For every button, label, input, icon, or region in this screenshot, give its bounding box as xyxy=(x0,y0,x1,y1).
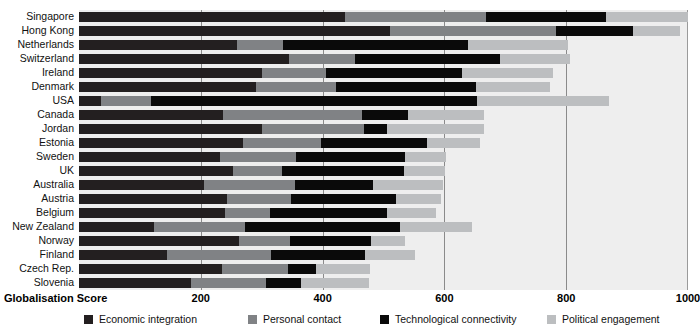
gridline-600 xyxy=(444,10,445,290)
legend-swatch-icon xyxy=(380,315,389,324)
bar-segment xyxy=(79,110,223,120)
plot-right-edge xyxy=(687,10,688,290)
legend-swatch-icon xyxy=(547,315,556,324)
bar-segment xyxy=(476,82,550,92)
bar-segment xyxy=(79,166,233,176)
bar-segment xyxy=(362,110,408,120)
bar-segment xyxy=(79,54,289,64)
bar-segment xyxy=(296,152,406,162)
bar-segment xyxy=(282,166,404,176)
x-tick-label-800: 800 xyxy=(557,292,575,304)
bar-segment xyxy=(79,124,262,134)
bar-segment xyxy=(204,180,295,190)
bar-segment xyxy=(227,194,291,204)
category-label: Czech Rep. xyxy=(0,263,74,274)
category-label: Switzerland xyxy=(0,53,74,64)
x-tick-label-400: 400 xyxy=(313,292,331,304)
bar-segment xyxy=(79,26,390,36)
category-label: Australia xyxy=(0,179,74,190)
bar-segment xyxy=(364,124,387,134)
bar-row xyxy=(79,12,688,22)
bar-segment xyxy=(468,40,568,50)
legend-label: Political engagement xyxy=(562,313,659,325)
bar-row xyxy=(79,26,688,36)
bar-segment xyxy=(288,264,315,274)
category-label: Norway xyxy=(0,235,74,246)
category-label: Canada xyxy=(0,109,74,120)
bar-segment xyxy=(633,26,680,36)
bar-segment xyxy=(101,96,152,106)
bar-row xyxy=(79,82,688,92)
bar-row xyxy=(79,222,688,232)
bar-segment xyxy=(225,208,271,218)
bar-segment xyxy=(396,194,440,204)
globalisation-score-chart: SingaporeHong KongNetherlandsSwitzerland… xyxy=(0,0,700,336)
x-axis-title: Globalisation Score xyxy=(4,292,107,304)
bar-row xyxy=(79,278,688,288)
gridline-200 xyxy=(201,10,202,290)
legend-swatch-icon xyxy=(84,315,93,324)
bar-segment xyxy=(79,222,154,232)
category-label: Sweden xyxy=(0,151,74,162)
bar-row xyxy=(79,124,688,134)
category-label: New Zealand xyxy=(0,221,74,232)
bar-segment xyxy=(245,222,400,232)
legend-item[interactable]: Economic integration xyxy=(84,313,197,325)
category-label: USA xyxy=(0,95,74,106)
legend-swatch-icon xyxy=(248,315,257,324)
bar-segment xyxy=(79,12,345,22)
legend-item[interactable]: Political engagement xyxy=(547,313,659,325)
bar-segment xyxy=(237,40,283,50)
bar-row xyxy=(79,152,688,162)
bar-row xyxy=(79,264,688,274)
category-label: Finland xyxy=(0,249,74,260)
bar-segment xyxy=(371,236,405,246)
bar-segment xyxy=(223,110,362,120)
bar-segment xyxy=(79,82,256,92)
bar-segment xyxy=(270,208,387,218)
bar-segment xyxy=(500,54,570,64)
category-label: Singapore xyxy=(0,11,74,22)
gridline-800 xyxy=(566,10,567,290)
bar-segment xyxy=(79,236,239,246)
bar-segment xyxy=(154,222,245,232)
bar-segment xyxy=(79,180,204,190)
bar-segment xyxy=(266,278,301,288)
bar-row xyxy=(79,208,688,218)
bar-segment xyxy=(291,194,396,204)
bar-segment xyxy=(283,40,468,50)
bar-row xyxy=(79,54,688,64)
bar-segment xyxy=(79,96,101,106)
bar-row xyxy=(79,236,688,246)
bar-row xyxy=(79,110,688,120)
bar-segment xyxy=(390,26,557,36)
category-label: Hong Kong xyxy=(0,25,74,36)
bar-segment xyxy=(404,166,445,176)
bar-segment xyxy=(400,222,472,232)
bar-row xyxy=(79,180,688,190)
bar-segment xyxy=(387,124,484,134)
bar-row xyxy=(79,40,688,50)
category-label: Slovenia xyxy=(0,277,74,288)
legend-item[interactable]: Personal contact xyxy=(248,313,341,325)
bar-segment xyxy=(336,82,476,92)
bar-row xyxy=(79,96,688,106)
bar-row xyxy=(79,68,688,78)
category-label: Denmark xyxy=(0,81,74,92)
bar-segment xyxy=(79,278,191,288)
category-label: Ireland xyxy=(0,67,74,78)
bar-segment xyxy=(239,236,291,246)
legend-label: Personal contact xyxy=(263,313,341,325)
bar-segment xyxy=(408,110,484,120)
bar-segment xyxy=(345,12,486,22)
bar-segment xyxy=(191,278,266,288)
x-tick-label-200: 200 xyxy=(192,292,210,304)
category-label: Netherlands xyxy=(0,39,74,50)
category-label: Jordan xyxy=(0,123,74,134)
bar-segment xyxy=(477,96,610,106)
bar-segment xyxy=(387,208,436,218)
bar-segment xyxy=(233,166,282,176)
legend-item[interactable]: Technological connectivity xyxy=(380,313,516,325)
bar-segment xyxy=(222,264,289,274)
bar-row xyxy=(79,250,688,260)
